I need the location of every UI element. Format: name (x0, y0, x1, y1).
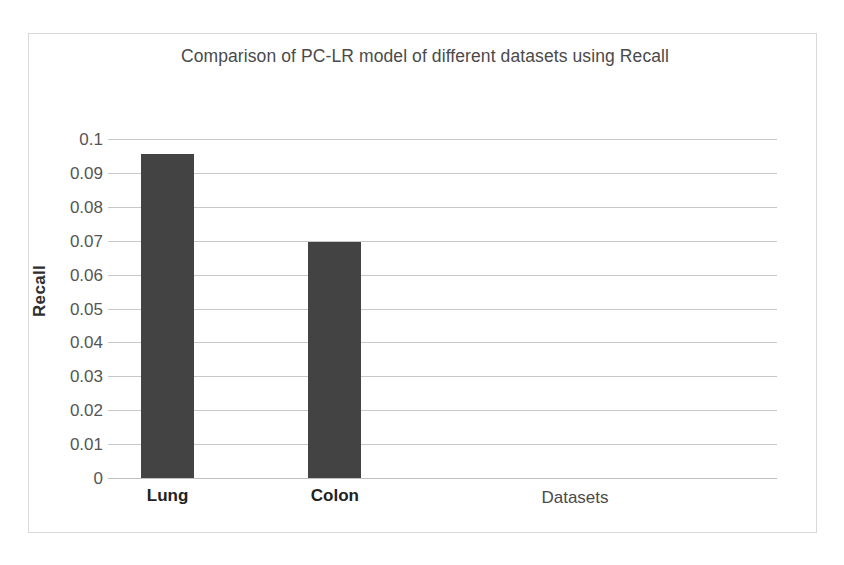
x-axis-category-label-colon: Colon (275, 486, 395, 506)
gridline (108, 309, 777, 310)
x-axis-category-label-lung: Lung (108, 486, 228, 506)
gridline (108, 444, 777, 445)
gridline (108, 478, 777, 479)
gridline (108, 139, 777, 140)
y-axis-tick-label: 0.04 (3, 334, 103, 351)
gridline (108, 410, 777, 411)
gridline (108, 376, 777, 377)
y-axis-tick-label: 0.02 (3, 402, 103, 419)
y-axis-tick-label: 0.06 (3, 266, 103, 283)
y-axis-tick-label: 0.09 (3, 164, 103, 181)
y-axis-tick-labels: 0.10.090.080.070.060.050.040.030.020.010 (0, 139, 103, 478)
gridline (108, 342, 777, 343)
plot-area (108, 139, 777, 478)
chart-title: Comparison of PC-LR model of different d… (40, 46, 810, 67)
y-axis-tick-label: 0.05 (3, 300, 103, 317)
y-axis-tick-label: 0.01 (3, 436, 103, 453)
bar-colon[interactable] (308, 242, 361, 478)
y-axis-tick-label: 0.08 (3, 198, 103, 215)
y-axis-tick-label: 0 (3, 470, 103, 487)
y-axis-tick-label: 0.03 (3, 368, 103, 385)
chart-figure: Comparison of PC-LR model of different d… (0, 0, 844, 565)
gridline (108, 207, 777, 208)
gridline (108, 241, 777, 242)
y-axis-tick-label: 0.1 (3, 131, 103, 148)
bar-lung[interactable] (141, 154, 194, 478)
x-axis-title: Datasets (495, 488, 655, 508)
gridline (108, 173, 777, 174)
gridline (108, 275, 777, 276)
y-axis-tick-label: 0.07 (3, 232, 103, 249)
